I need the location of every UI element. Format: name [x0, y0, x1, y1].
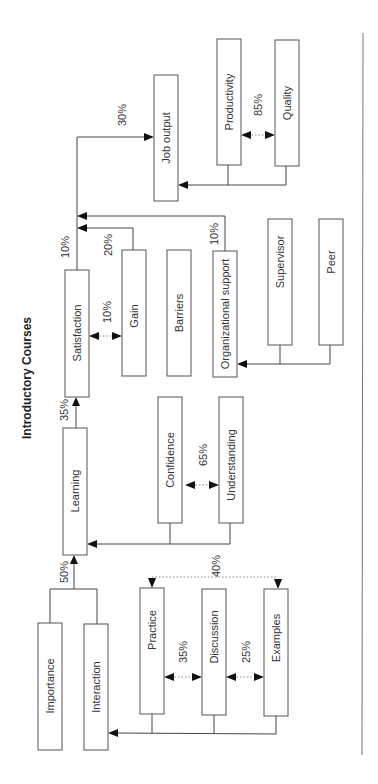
arrow-right-icon: [192, 673, 202, 681]
weight-label: 50%: [58, 561, 70, 583]
node-confidence: Confidence: [158, 397, 182, 523]
connector-practice-examples: [148, 577, 282, 589]
arrow-left-icon: [178, 181, 188, 189]
arrow-right-icon: [209, 481, 219, 489]
page-rule: [362, 33, 363, 755]
arrow-left-icon: [226, 673, 236, 681]
arrow-left-icon: [108, 729, 118, 737]
node-label: Peer: [325, 250, 337, 274]
connector-learning-to-satisfaction: [72, 397, 80, 428]
node-label: Satisfaction: [71, 305, 83, 362]
arrow-right-icon: [254, 673, 264, 681]
weight-label: 65%: [197, 444, 209, 466]
connector-prod-quality-to-job-output: [178, 165, 286, 189]
node-label: Organizational support: [219, 259, 231, 370]
node-examples: Examples: [264, 589, 288, 716]
diagram-canvas: Introductory Courses: [0, 0, 378, 784]
node-label: Quality: [281, 85, 293, 120]
node-quality: Quality: [275, 40, 299, 166]
node-label: Confidence: [164, 432, 176, 488]
node-label: Interaction: [90, 661, 102, 712]
node-label: Productivity: [223, 73, 235, 130]
node-label: Understanding: [225, 429, 237, 501]
node-label: Learning: [69, 470, 81, 513]
correlation-confidence-understanding: [185, 481, 219, 489]
arrow-right-icon: [265, 131, 275, 139]
node-productivity: Productivity: [217, 39, 241, 165]
arrow-left-icon: [241, 131, 251, 139]
node-label: Importance: [44, 658, 56, 713]
node-supervisor: Supervisor: [268, 219, 292, 345]
weight-label: 10%: [101, 301, 113, 323]
node-discussion: Discussion: [202, 589, 226, 715]
node-label: Job output: [160, 112, 172, 163]
connector-supervisor-peer-to-org: [237, 345, 330, 368]
connector-methods-to-interaction: [108, 714, 276, 737]
weight-label: 10%: [59, 236, 71, 258]
node-label: Practice: [146, 610, 158, 650]
correlation-discussion-examples: [226, 673, 264, 681]
node-label: Supervisor: [274, 235, 286, 288]
weight-label: 40%: [210, 555, 222, 577]
node-peer: Peer: [319, 219, 343, 345]
weight-label: 25%: [240, 641, 252, 663]
connector-org-to-trunk: [77, 212, 225, 251]
node-label: Discussion: [208, 610, 220, 663]
arrow-down-icon: [274, 579, 282, 589]
correlation-practice-discussion: [164, 673, 202, 681]
weight-label: 20%: [102, 234, 114, 256]
weight-label: 30%: [116, 104, 128, 126]
arrow-right-icon: [112, 332, 122, 340]
node-understanding: Understanding: [219, 397, 243, 523]
weight-label: 35%: [58, 399, 70, 421]
connector-to-job-output: [77, 133, 154, 270]
arrow-left-icon: [164, 673, 174, 681]
correlation-productivity-quality: [241, 131, 275, 139]
node-label: Examples: [270, 613, 282, 662]
node-practice: Practice: [140, 588, 164, 714]
node-label: Gain: [128, 304, 140, 327]
node-label: Barriers: [173, 293, 185, 332]
node-gain: Gain: [122, 250, 146, 376]
arrow-up-icon: [70, 555, 78, 564]
node-job-output: Job output: [154, 75, 178, 201]
node-barriers: Barriers: [167, 250, 191, 376]
arrow-left-icon: [77, 224, 87, 232]
arrow-down-icon: [148, 578, 156, 588]
weight-label: 85%: [252, 94, 264, 116]
node-learning: Learning: [63, 428, 87, 555]
correlation-satisfaction-gain: [89, 332, 122, 340]
arrow-left-icon: [237, 360, 247, 368]
weight-label: 35%: [177, 641, 189, 663]
arrow-right-icon: [144, 133, 154, 141]
arrow-left-icon: [77, 212, 87, 220]
arrow-left-icon: [89, 332, 99, 340]
arrow-up-icon: [72, 397, 80, 406]
node-importance: Importance: [38, 623, 62, 750]
weight-label: 10%: [208, 223, 220, 245]
node-interaction: Interaction: [84, 624, 108, 750]
node-organizational-support: Organizational support: [213, 251, 237, 377]
arrow-left-icon: [185, 481, 195, 489]
node-satisfaction: Satisfaction: [65, 270, 89, 397]
connector-confidence-understanding-to-learning: [87, 523, 230, 548]
arrow-left-icon: [87, 540, 97, 548]
diagram-title: Introductory Courses: [20, 317, 34, 439]
